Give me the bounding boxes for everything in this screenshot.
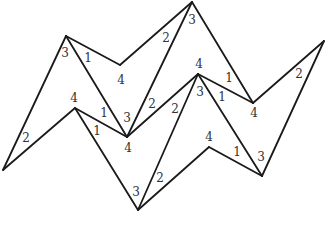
edge-f-g (127, 74, 198, 137)
angle-label-e-1a: 1 (100, 106, 108, 120)
angle-label-j-3: 3 (132, 185, 140, 199)
angle-label-f-2: 2 (148, 97, 156, 111)
angle-label-g-2: 2 (171, 102, 179, 116)
angle-label-g-4: 4 (195, 57, 203, 71)
angle-label-l-1: 1 (233, 145, 241, 159)
angle-label-h-1: 1 (225, 71, 233, 85)
edge-a-b (3, 36, 66, 170)
triangle-tiling-diagram: 314232411342243114232413 (0, 0, 334, 229)
angle-label-g-1: 1 (218, 90, 226, 104)
edge-h-i (253, 41, 324, 103)
edge-j-k (138, 147, 209, 210)
edge-f-d (127, 2, 192, 137)
angle-label-f-3: 3 (123, 111, 131, 125)
angle-label-j-2: 2 (156, 171, 164, 185)
angle-label-e-4: 4 (70, 91, 78, 105)
angle-label-h-4: 4 (250, 106, 258, 120)
angle-label-d-2: 2 (162, 31, 170, 45)
angle-label-k-4: 4 (205, 130, 213, 144)
angle-label-l-3: 3 (257, 150, 265, 164)
edge-b-f (66, 36, 127, 137)
angle-label-c-4: 4 (117, 73, 125, 87)
angle-label-a-2: 2 (22, 131, 30, 145)
edge-l-i (262, 41, 324, 176)
edge-g-l (198, 74, 262, 176)
angle-label-i-2: 2 (295, 67, 303, 81)
angle-label-e-1b: 1 (93, 124, 101, 138)
angle-label-g-3: 3 (196, 85, 204, 99)
edge-c-d (120, 2, 192, 65)
angle-label-b-3: 3 (61, 46, 69, 60)
angle-label-f-4: 4 (124, 141, 132, 155)
edge-a-e (3, 108, 75, 170)
angle-label-d-3: 3 (188, 13, 196, 27)
angle-label-b-1: 1 (84, 51, 92, 65)
